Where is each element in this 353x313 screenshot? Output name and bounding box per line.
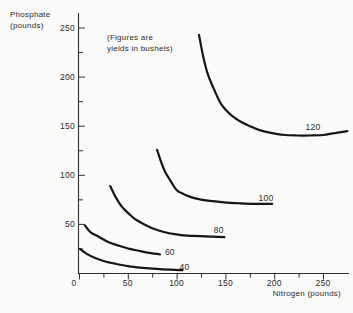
x-tick-label: 100 <box>169 278 184 288</box>
x-tick-label: 150 <box>218 278 233 288</box>
y-axis-title-line2: (pounds) <box>10 21 51 32</box>
curve-label-100: 100 <box>259 193 274 203</box>
curve-100 <box>157 150 272 204</box>
curve-80 <box>110 186 224 237</box>
y-tick-label: 50 <box>65 219 75 229</box>
curve-120 <box>199 35 347 136</box>
curve-label-80: 80 <box>214 225 224 235</box>
annotation-line1: (Figures are <box>107 33 173 44</box>
annotation-line2: yields in bushels) <box>107 44 173 55</box>
y-axis-title: Phosphate (pounds) <box>10 10 51 31</box>
y-tick-label: 150 <box>60 121 75 131</box>
x-axis-title: Nitrogen (pounds) <box>273 289 341 300</box>
curve-label-60: 60 <box>165 247 175 257</box>
curve-label-40: 40 <box>180 262 190 272</box>
x-tick-label: 200 <box>267 278 282 288</box>
curve-60 <box>85 225 160 254</box>
curve-label-120: 120 <box>305 122 320 132</box>
y-axis-title-line1: Phosphate <box>10 10 51 21</box>
y-tick-label: 250 <box>60 23 75 33</box>
plot-area: 0501001502002505010015020025040608010012… <box>0 0 353 313</box>
chart-annotation: (Figures are yields in bushels) <box>107 33 173 54</box>
x-tick-label: 50 <box>123 278 133 288</box>
x-tick-label: 0 <box>72 278 77 288</box>
y-tick-label: 200 <box>60 72 75 82</box>
isoquant-chart: 0501001502002505010015020025040608010012… <box>0 0 353 313</box>
x-tick-label: 250 <box>316 278 331 288</box>
y-tick-label: 100 <box>60 170 75 180</box>
